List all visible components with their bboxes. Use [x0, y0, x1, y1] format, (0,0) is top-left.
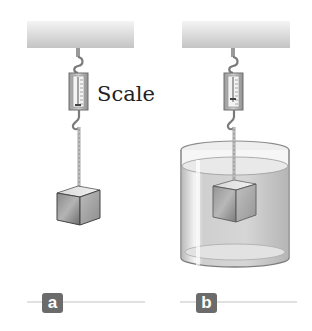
panel-b	[180, 21, 297, 302]
block-b	[213, 180, 256, 222]
spring-scale-b	[224, 73, 243, 110]
ceiling-support-a	[27, 21, 134, 48]
panel-marker-b: b	[196, 293, 217, 313]
support-rod-b	[231, 48, 235, 57]
scale-label: Scale	[97, 82, 155, 106]
top-hook-icon-a	[74, 57, 82, 73]
panel-marker-a: a	[42, 293, 63, 313]
spring-scale-a	[69, 73, 88, 110]
top-hook-icon-b	[229, 57, 237, 73]
diagram-canvas	[0, 0, 312, 331]
panel-a	[27, 21, 145, 302]
support-rod-a	[76, 48, 80, 57]
block-a	[57, 186, 100, 225]
bottom-hook-icon-a	[73, 110, 79, 129]
bottom-hook-icon-b	[228, 110, 234, 129]
ceiling-support-b	[182, 21, 290, 48]
